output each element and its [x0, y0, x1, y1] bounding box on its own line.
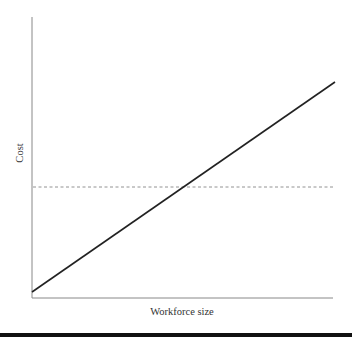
chart: Cost Workforce size: [0, 0, 352, 337]
y-axis-label: Cost: [14, 143, 25, 162]
bottom-rule: [0, 333, 352, 337]
x-axis-label: Workforce size: [150, 306, 214, 317]
